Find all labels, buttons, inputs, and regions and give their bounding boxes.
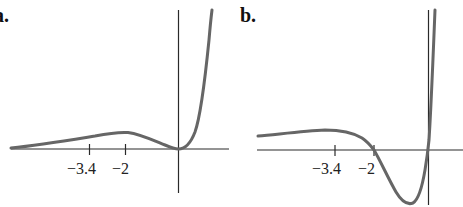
- panel-a-tick-label-3.4: −3.4: [67, 160, 96, 178]
- panel-b-tick-label-2: −2: [358, 160, 375, 178]
- panel-b-tick-label-3.4: −3.4: [312, 160, 341, 178]
- panel-b-curve: [258, 10, 435, 204]
- panel-a-tick-label-2: −2: [112, 160, 129, 178]
- panel-a-curve: [11, 10, 212, 149]
